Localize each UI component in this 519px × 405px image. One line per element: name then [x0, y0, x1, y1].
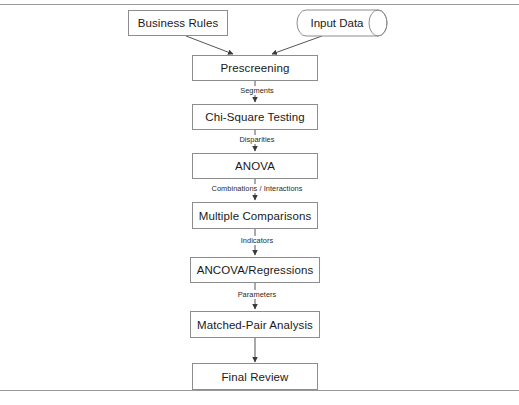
node-matched-pair-analysis-label: Matched-Pair Analysis — [197, 319, 313, 331]
node-business-rules-label: Business Rules — [138, 17, 219, 29]
node-anova[interactable]: ANOVA — [192, 153, 318, 179]
edge-label-disparities: Disparities — [205, 135, 309, 144]
node-input-data[interactable]: Input Data — [296, 9, 388, 37]
node-prescreening[interactable]: Prescreening — [192, 55, 318, 81]
connector-business-rules-to-prescreening — [186, 36, 233, 54]
node-business-rules[interactable]: Business Rules — [128, 10, 228, 36]
edge-label-parameters: Parameters — [205, 290, 309, 299]
edge-label-segments: Segments — [205, 86, 309, 95]
node-multiple-comparisons[interactable]: Multiple Comparisons — [192, 202, 318, 229]
node-matched-pair-analysis[interactable]: Matched-Pair Analysis — [190, 311, 320, 338]
top-horizontal-rule — [0, 4, 519, 5]
node-ancova-regressions[interactable]: ANCOVA/Regressions — [190, 257, 320, 283]
node-final-review[interactable]: Final Review — [192, 363, 318, 390]
node-input-data-label: Input Data — [310, 17, 373, 29]
connector-input-data-to-prescreening — [272, 36, 322, 54]
edge-label-combinations-interactions: Combinations / Interactions — [185, 184, 329, 193]
bottom-horizontal-rule — [0, 390, 519, 391]
node-multiple-comparisons-label: Multiple Comparisons — [199, 210, 312, 222]
node-prescreening-label: Prescreening — [221, 62, 290, 74]
node-chi-square-testing[interactable]: Chi-Square Testing — [192, 104, 318, 130]
node-ancova-regressions-label: ANCOVA/Regressions — [197, 264, 314, 276]
node-final-review-label: Final Review — [221, 371, 288, 383]
node-chi-square-testing-label: Chi-Square Testing — [205, 111, 304, 123]
node-anova-label: ANOVA — [235, 160, 275, 172]
edge-label-indicators: Indicators — [205, 236, 309, 245]
